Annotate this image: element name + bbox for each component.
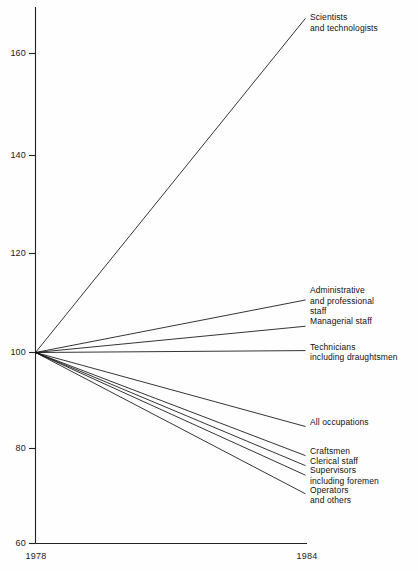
series-label-line: and professional [310,296,374,307]
y-tick-marks [29,54,36,544]
x-tick-label-1984: 1984 [289,551,325,561]
series-label-line: Supervisors [310,465,379,476]
series-label: Managerial staff [310,316,372,327]
series-label: Operatorsand others [310,485,351,506]
series-line [36,353,306,476]
y-tick-label-80: 80 [0,443,26,453]
series-line [36,353,306,494]
series-label-line: and technologists [310,23,378,34]
series-label-line: Scientists [310,12,378,23]
series-label: Techniciansincluding draughtsmen [310,342,398,363]
series-line [36,353,306,456]
y-tick-label-60: 60 [0,538,26,548]
x-tick-label-1978: 1978 [18,551,54,561]
series-label: Administrativeand professionalstaff [310,285,374,317]
series-label-line: Craftsmen [310,446,350,457]
series-label-line: including draughtsmen [310,352,398,363]
series-line [36,351,306,353]
axes [36,7,308,544]
series-line [36,18,306,352]
series-label-line: staff [310,306,374,317]
series-label: Supervisorsincluding foremen [310,465,379,486]
series-line [36,353,306,466]
chart-figure: 160 140 120 100 80 60 1978 1984 Scientis… [0,0,418,571]
y-tick-label-100: 100 [0,347,26,357]
series-label: Craftsmen [310,446,350,457]
series-lines [36,18,306,494]
y-tick-label-160: 160 [0,48,26,58]
series-label: Scientistsand technologists [310,12,378,33]
series-line [36,300,306,353]
series-label-line: Managerial staff [310,316,372,327]
series-label-line: Technicians [310,342,398,353]
series-label-line: Administrative [310,285,374,296]
series-label-line: All occupations [310,417,369,428]
series-label: All occupations [310,417,369,428]
series-label-line: Operators [310,485,351,496]
series-line [36,353,306,427]
y-tick-label-140: 140 [0,150,26,160]
y-tick-label-120: 120 [0,248,26,258]
series-label-line: and others [310,495,351,506]
series-line [36,326,306,352]
